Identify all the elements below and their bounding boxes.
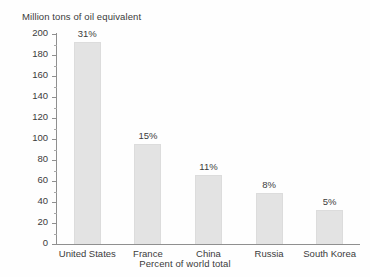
y-tick-label: 200 [32, 27, 48, 38]
bar[interactable] [74, 42, 101, 244]
y-tick-label: 80 [37, 153, 48, 164]
y-tick-label: 120 [32, 111, 48, 122]
y-tick-label: 180 [32, 48, 48, 59]
y-tick-label: 60 [37, 174, 48, 185]
y-tick-label: 100 [32, 132, 48, 143]
y-tick-mark [52, 244, 57, 245]
x-axis-line [56, 244, 360, 245]
x-axis-title: Percent of world total [0, 258, 370, 269]
y-tick-label: 20 [37, 216, 48, 227]
bar-value-label: 31% [57, 28, 117, 39]
y-axis-title: Million tons of oil equivalent [22, 11, 141, 22]
bar[interactable] [256, 193, 283, 244]
y-tick-label: 40 [37, 195, 48, 206]
y-tick-label: 0 [43, 237, 48, 248]
y-tick-label: 140 [32, 90, 48, 101]
bar-chart: Million tons of oil equivalent 200180160… [0, 0, 370, 277]
y-tick-label: 160 [32, 69, 48, 80]
bar-value-label: 11% [179, 161, 239, 172]
bar-value-label: 5% [300, 196, 360, 207]
bar[interactable] [134, 144, 161, 244]
bar[interactable] [195, 175, 222, 244]
bar-value-label: 15% [118, 130, 178, 141]
bar-value-label: 8% [239, 179, 299, 190]
bars-group [57, 34, 360, 244]
bar[interactable] [316, 210, 343, 244]
